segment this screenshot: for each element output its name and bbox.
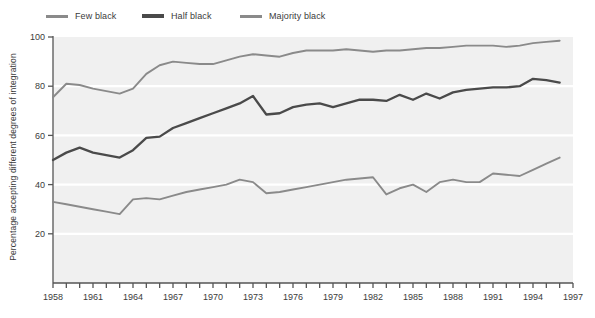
x-tick-label: 1961 xyxy=(83,292,103,302)
x-tick-label: 1958 xyxy=(43,292,63,302)
y-tick-label: 60 xyxy=(35,131,45,141)
x-tick-label: 1976 xyxy=(283,292,303,302)
x-tick-label: 1964 xyxy=(123,292,143,302)
y-tick-label: 100 xyxy=(30,32,45,42)
y-tick-label: 80 xyxy=(35,81,45,91)
x-tick-label: 1988 xyxy=(443,292,463,302)
plot-background xyxy=(53,37,573,283)
x-tick-label: 1970 xyxy=(203,292,223,302)
chart-figure: Few black Half black Majority black Perc… xyxy=(0,0,595,318)
x-tick-label: 1997 xyxy=(563,292,583,302)
x-tick-label: 1994 xyxy=(523,292,543,302)
x-tick-label: 1967 xyxy=(163,292,183,302)
x-tick-label: 1973 xyxy=(243,292,263,302)
y-tick-label: 20 xyxy=(35,229,45,239)
x-tick-label: 1979 xyxy=(323,292,343,302)
x-tick-label: 1982 xyxy=(363,292,383,302)
y-tick-label: 40 xyxy=(35,180,45,190)
chart-plot-area: 2040608010019581961196419671970197319761… xyxy=(0,0,595,318)
x-tick-label: 1991 xyxy=(483,292,503,302)
x-tick-label: 1985 xyxy=(403,292,423,302)
